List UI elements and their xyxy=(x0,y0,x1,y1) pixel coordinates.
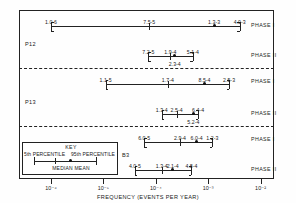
key-p95-label: 95th PERCENTILE xyxy=(71,151,115,157)
x-axis-tick-label: 10⁻⁶ xyxy=(45,185,56,191)
group-label-p12: P12 xyxy=(25,41,36,47)
p5-value-label: 1.0-6 xyxy=(45,19,57,25)
p5-value-label: 1.3-4 xyxy=(156,107,168,113)
mean-value-label: 5.2-4 xyxy=(187,119,199,125)
range-bar xyxy=(144,142,212,143)
key-p5-cap xyxy=(34,157,35,165)
key-box: KEY 5th PERCENTILE 95th PERCENTILE MEDIA… xyxy=(22,142,118,175)
median-value-label: 7.5-5 xyxy=(143,19,155,25)
interval-row: 1.0-67.5-51.3-34.0-3 xyxy=(0,20,296,32)
x-axis-tick-label: 10⁻⁵ xyxy=(98,185,109,191)
key-mean-dot xyxy=(69,159,72,162)
cap-serif xyxy=(135,175,138,176)
cap-serif xyxy=(162,119,165,120)
cap-serif xyxy=(227,89,230,90)
interval-row: 7.2-51.9-42.3-45.1-4 xyxy=(0,50,296,62)
median-value-label: 1.7-4 xyxy=(162,77,174,83)
x-axis-tick xyxy=(103,179,104,184)
cap-serif xyxy=(237,31,240,32)
x-axis-tick xyxy=(156,179,157,184)
p95-value-label: 4.0-3 xyxy=(234,19,246,25)
mean-value-label: 2.3-4 xyxy=(169,61,181,67)
group-label-p13: P13 xyxy=(25,99,36,105)
cap-serif xyxy=(189,175,192,176)
cap-serif xyxy=(51,31,54,32)
key-title: KEY xyxy=(23,144,119,150)
key-footer-label: MEDIAN MEAN xyxy=(23,165,119,171)
median-value-label: 1.9-4 xyxy=(164,49,176,55)
range-bar xyxy=(135,170,192,171)
group-label-b3: B3 xyxy=(122,152,129,158)
x-axis-tick xyxy=(208,179,209,184)
mean-value-label: 8.5-4 xyxy=(198,77,210,83)
p5-value-label: 4.0-5 xyxy=(129,163,141,169)
interval-row: 1.3-42.5-45.2-46.4-4 xyxy=(0,108,296,120)
group-separator-1 xyxy=(19,68,274,69)
p95-value-label: 6.4-4 xyxy=(192,107,204,113)
x-axis-tick xyxy=(51,179,52,184)
p5-value-label: 1.1-5 xyxy=(100,77,112,83)
cap-serif xyxy=(210,147,213,148)
x-axis-tick-label: 10⁻² xyxy=(255,185,266,191)
median-value-label: 2.9-4 xyxy=(174,135,186,141)
mean-value-label: 2.1-4 xyxy=(167,163,179,169)
x-axis-tick-label: 10⁻³ xyxy=(203,185,214,191)
x-axis-tick xyxy=(261,179,262,184)
x-axis-title: FREQUENCY (EVENTS PER YEAR) xyxy=(0,194,296,200)
p5-value-label: 6.0-5 xyxy=(138,135,150,141)
key-median-tick xyxy=(55,158,56,164)
p95-value-label: 5.1-4 xyxy=(187,49,199,55)
key-range-bar xyxy=(34,161,96,162)
cap-serif xyxy=(148,61,151,62)
interval-row: 1.1-51.7-48.5-42.5-3 xyxy=(0,78,296,90)
x-axis-tick-label: 10⁻⁴ xyxy=(150,185,162,191)
mean-value-label: 6.0-4 xyxy=(191,135,203,141)
cap-serif xyxy=(144,147,147,148)
p95-value-label: 2.5-3 xyxy=(223,77,235,83)
p95-value-label: 1.2-3 xyxy=(206,135,218,141)
p95-value-label: 4.8-4 xyxy=(185,163,197,169)
mean-value-label: 1.3-3 xyxy=(208,19,220,25)
figure-canvas: P12 P13 B3 PHASE I PHASE II PHASE I PHAS… xyxy=(0,0,296,203)
key-p5-label: 5th PERCENTILE xyxy=(24,151,65,157)
key-p95-cap xyxy=(96,157,97,165)
median-value-label: 2.5-4 xyxy=(171,107,183,113)
range-bar xyxy=(51,26,240,27)
p5-value-label: 7.2-5 xyxy=(142,49,154,55)
cap-serif xyxy=(190,61,193,62)
cap-serif xyxy=(106,89,109,90)
group-separator-2 xyxy=(19,126,274,127)
